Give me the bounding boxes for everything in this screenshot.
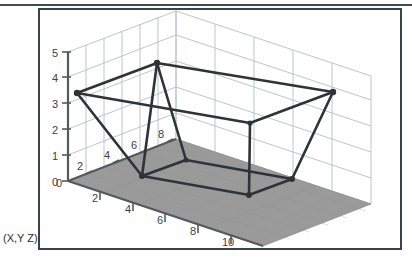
vertex-dot — [246, 192, 252, 198]
plot-frame: 0 1 2 3 4 5 2 4 6 8 — [38, 8, 402, 250]
page-top-rule — [0, 4, 412, 6]
vertex-dot — [139, 173, 145, 179]
x-tick-label: 10 — [222, 236, 234, 248]
vertex-dot — [154, 60, 160, 66]
screenshot-page: 0 1 2 3 4 5 2 4 6 8 — [0, 0, 412, 265]
y-tick-label: 8 — [158, 128, 164, 140]
z-tick-label: 3 — [52, 98, 58, 110]
axes-caption: (X,Y Z) — [3, 232, 38, 244]
plot-3d-svg: 0 1 2 3 4 5 2 4 6 8 — [40, 10, 400, 248]
x-tick-label: 2 — [92, 192, 98, 204]
vertex-dot — [330, 89, 336, 95]
z-axis-ticks — [62, 52, 71, 181]
x-tick-label: 4 — [125, 203, 131, 215]
vertex-dot — [247, 120, 252, 125]
floor-plane — [68, 139, 371, 246]
vertex-dot — [289, 176, 295, 182]
y-tick-label: 4 — [104, 149, 110, 161]
z-tick-label: 5 — [52, 47, 58, 59]
vertex-dot — [74, 90, 80, 96]
z-tick-label: 4 — [52, 72, 58, 84]
z-tick-label: 1 — [52, 150, 58, 162]
x-tick-label: 6 — [157, 214, 163, 226]
x-tick-label: 8 — [190, 225, 196, 237]
z-axis-tick-labels: 0 1 2 3 4 5 — [52, 47, 58, 188]
z-tick-label: 2 — [52, 124, 58, 136]
vertex-dot — [183, 157, 188, 162]
y-tick-label: 2 — [77, 160, 83, 172]
origin-label: 0 — [56, 177, 62, 189]
y-tick-label: 6 — [131, 139, 137, 151]
